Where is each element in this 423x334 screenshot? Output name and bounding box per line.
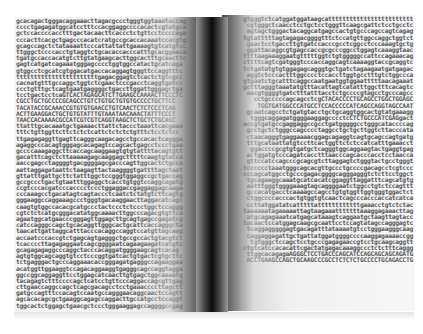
left-page-gutter-shadow bbox=[132, 17, 202, 312]
book-photo: gcacagactgggacaggaaacttagacgccctgggtggta… bbox=[0, 0, 423, 334]
right-page-gutter-shadow bbox=[222, 15, 292, 311]
right-page: gtgggtctcatggatggataagcatttttttttttttttt… bbox=[222, 15, 414, 311]
page-bottom-shadow bbox=[14, 312, 414, 320]
left-page: gcacagactgggacaggaaacttagacgccctgggtggta… bbox=[14, 17, 202, 312]
book-spine bbox=[196, 17, 228, 312]
